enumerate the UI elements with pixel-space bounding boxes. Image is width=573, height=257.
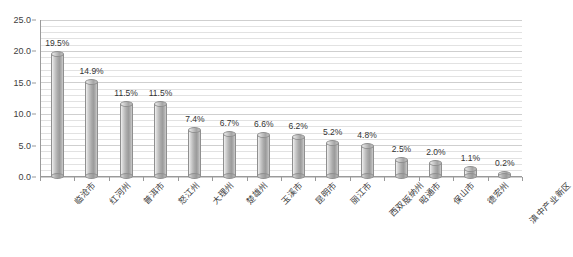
bar[interactable]: 11.5% bbox=[120, 104, 133, 176]
x-axis-tick-mark bbox=[522, 177, 523, 181]
bar-slot: 6.7% bbox=[212, 20, 246, 176]
bar-top-ellipse bbox=[395, 157, 408, 163]
bar-top-ellipse bbox=[120, 101, 133, 107]
x-axis-category-label: 大理州 bbox=[210, 180, 236, 206]
y-axis-tick-mark bbox=[32, 82, 36, 83]
x-axis-category-label: 丽江市 bbox=[348, 180, 374, 206]
bar-value-label: 11.5% bbox=[149, 89, 172, 98]
x-axis-category-label: 昆明市 bbox=[313, 180, 339, 206]
bar[interactable]: 2.5% bbox=[395, 160, 408, 176]
bar-body bbox=[154, 104, 167, 176]
bar-slot: 19.5% bbox=[40, 20, 74, 176]
bar[interactable]: 2.0% bbox=[429, 163, 442, 176]
bar-value-label: 6.7% bbox=[220, 119, 239, 128]
bar[interactable]: 5.2% bbox=[326, 143, 339, 176]
bar-top-ellipse bbox=[429, 160, 442, 166]
bar-slot: 2.5% bbox=[384, 20, 418, 176]
bar-value-label: 19.5% bbox=[45, 39, 69, 48]
bar[interactable]: 7.4% bbox=[188, 130, 201, 176]
x-axis-labels: 临沧市红河州普洱市怒江州大理州楚雄州玉溪市昆明市丽江市西双版纳州昭通市保山市德宏… bbox=[40, 180, 522, 240]
bar-body bbox=[85, 82, 98, 176]
bar-slot: 7.4% bbox=[178, 20, 212, 176]
bar[interactable]: 11.5% bbox=[154, 104, 167, 176]
x-axis-category-label: 怒江州 bbox=[175, 180, 201, 206]
bar-body bbox=[395, 160, 408, 176]
bar-top-ellipse bbox=[326, 140, 339, 146]
bar-top-ellipse bbox=[85, 79, 98, 85]
bar-value-label: 11.5% bbox=[114, 89, 137, 98]
bar-body bbox=[326, 143, 339, 176]
y-axis-tick-label: 20.0 bbox=[13, 47, 31, 56]
bar-body bbox=[257, 135, 270, 176]
y-axis: 0.05.010.015.020.025.0 bbox=[0, 20, 36, 177]
x-axis-category-label: 滇中产业新区 bbox=[528, 180, 573, 225]
bar[interactable]: 6.2% bbox=[292, 137, 305, 176]
bar-slot: 6.2% bbox=[281, 20, 315, 176]
bar-slot: 6.6% bbox=[247, 20, 281, 176]
x-axis-category-label: 普洱市 bbox=[141, 180, 167, 206]
bar-top-ellipse bbox=[154, 101, 167, 107]
y-axis-tick-label: 0.0 bbox=[18, 173, 31, 182]
x-axis-category-label: 德宏州 bbox=[485, 180, 511, 206]
bar-body bbox=[498, 174, 511, 176]
bar[interactable]: 19.5% bbox=[51, 54, 64, 176]
x-axis-category-label: 楚雄州 bbox=[244, 180, 270, 206]
bar-value-label: 4.8% bbox=[357, 131, 376, 140]
y-axis-tick-label: 10.0 bbox=[13, 110, 31, 119]
bar[interactable]: 14.9% bbox=[85, 82, 98, 176]
bar-value-label: 14.9% bbox=[80, 67, 104, 76]
y-axis-tick-label: 5.0 bbox=[18, 141, 31, 150]
bar-body bbox=[120, 104, 133, 176]
y-axis-tick-label: 15.0 bbox=[13, 78, 31, 87]
bar-top-ellipse bbox=[257, 132, 270, 138]
bar-value-label: 0.2% bbox=[495, 159, 514, 168]
bar-slot: 0.2% bbox=[488, 20, 522, 176]
bar-top-ellipse bbox=[188, 127, 201, 133]
bar-top-ellipse bbox=[292, 134, 305, 140]
bar-value-label: 1.1% bbox=[461, 154, 480, 163]
bar-value-label: 5.2% bbox=[323, 128, 342, 137]
bar-value-label: 2.0% bbox=[426, 148, 445, 157]
bar-value-label: 7.4% bbox=[185, 115, 204, 124]
y-axis-tick-mark bbox=[32, 177, 36, 178]
x-axis-category-label: 红河州 bbox=[107, 180, 133, 206]
bar-slot: 14.9% bbox=[74, 20, 108, 176]
bar[interactable]: 6.6% bbox=[257, 135, 270, 176]
bar-body bbox=[188, 130, 201, 176]
bars: 19.5%14.9%11.5%11.5%7.4%6.7%6.6%6.2%5.2%… bbox=[40, 20, 522, 177]
bar-slot: 1.1% bbox=[453, 20, 487, 176]
y-axis-tick-mark bbox=[32, 114, 36, 115]
y-axis-tick-mark bbox=[32, 51, 36, 52]
bar-value-label: 2.5% bbox=[392, 145, 411, 154]
bar-top-ellipse bbox=[51, 51, 64, 57]
x-axis-category-label: 玉溪市 bbox=[279, 180, 305, 206]
bar-top-ellipse bbox=[361, 143, 374, 149]
bar[interactable]: 4.8% bbox=[361, 146, 374, 176]
bar-body bbox=[464, 169, 477, 176]
bar-body bbox=[361, 146, 374, 176]
bar[interactable]: 6.7% bbox=[223, 134, 236, 176]
x-axis-category-label: 保山市 bbox=[451, 180, 477, 206]
bar-top-ellipse bbox=[464, 166, 477, 172]
plot-area: 19.5%14.9%11.5%11.5%7.4%6.7%6.6%6.2%5.2%… bbox=[40, 20, 522, 177]
bar-body bbox=[429, 163, 442, 176]
y-axis-tick-label: 25.0 bbox=[13, 16, 31, 25]
bar[interactable]: 1.1% bbox=[464, 169, 477, 176]
x-axis-category-label: 临沧市 bbox=[72, 180, 98, 206]
bar-body bbox=[292, 137, 305, 176]
bar-top-ellipse bbox=[223, 131, 236, 137]
bar-value-label: 6.6% bbox=[254, 120, 273, 129]
bar-slot: 11.5% bbox=[109, 20, 143, 176]
y-axis-tick-mark bbox=[32, 20, 36, 21]
bar-body bbox=[51, 54, 64, 176]
bar-slot: 5.2% bbox=[315, 20, 349, 176]
bar[interactable]: 0.2% bbox=[498, 174, 511, 176]
bar-slot: 4.8% bbox=[350, 20, 384, 176]
y-axis-tick-mark bbox=[32, 145, 36, 146]
bar-value-label: 6.2% bbox=[289, 122, 308, 131]
bar-slot: 11.5% bbox=[143, 20, 177, 176]
bar-slot: 2.0% bbox=[419, 20, 453, 176]
bar-body bbox=[223, 134, 236, 176]
